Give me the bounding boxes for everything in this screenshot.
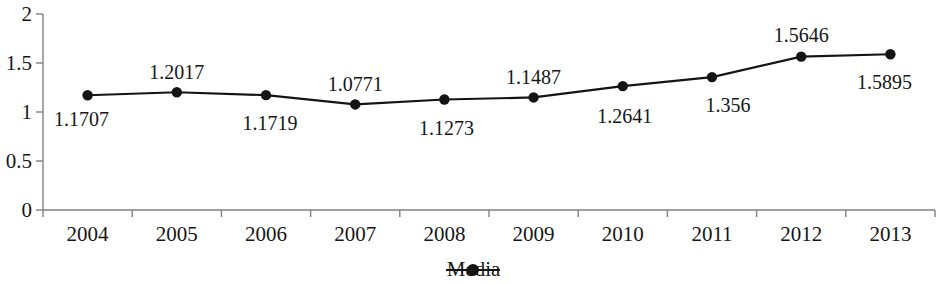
- x-axis-tick-label: 2006: [221, 224, 311, 245]
- x-axis-tick-label: 2008: [399, 224, 489, 245]
- x-axis-tick-label: 2007: [310, 224, 400, 245]
- data-point-marker: [82, 90, 92, 100]
- y-axis-tick-label: 1.5: [6, 53, 32, 74]
- data-point-label: 1.0771: [310, 74, 400, 94]
- data-point-marker: [796, 51, 806, 61]
- data-point-label: 1.1719: [225, 113, 315, 133]
- data-point-label: 1.1273: [401, 118, 491, 138]
- data-point-marker: [172, 87, 182, 97]
- y-axis-tick-label: 2: [22, 4, 33, 25]
- data-point-marker: [707, 72, 717, 82]
- data-point-marker: [261, 90, 271, 100]
- data-point-marker: [439, 94, 449, 104]
- data-point-label: 1.5646: [756, 25, 846, 45]
- data-point-label: 1.1707: [37, 109, 127, 129]
- line-chart: 00.511.52 200420052006200720082009201020…: [0, 0, 947, 284]
- y-axis-tick-label: 0.5: [6, 151, 32, 172]
- data-point-label: 1.2017: [132, 62, 222, 82]
- y-axis-tick-label: 0: [22, 200, 33, 221]
- data-point-label: 1.1487: [489, 67, 579, 87]
- x-axis-tick-label: 2009: [489, 224, 579, 245]
- x-axis-tick-label: 2004: [43, 224, 133, 245]
- data-point-label: 1.2641: [580, 106, 670, 126]
- x-axis-tick-label: 2012: [756, 224, 846, 245]
- data-point-marker: [618, 81, 628, 91]
- data-point-marker: [885, 49, 895, 59]
- x-axis-tick-label: 2013: [845, 224, 935, 245]
- data-point-label: 1.5895: [839, 72, 929, 92]
- x-axis-tick-label: 2005: [132, 224, 222, 245]
- x-axis-tick-label: 2011: [667, 224, 757, 245]
- data-point-marker: [528, 92, 538, 102]
- x-axis-tick-label: 2010: [578, 224, 668, 245]
- chart-legend: Media: [0, 255, 947, 284]
- y-axis-tick-label: 1: [22, 102, 33, 123]
- legend-label-media: Media: [447, 259, 501, 280]
- data-point-marker: [350, 99, 360, 109]
- data-point-label: 1.356: [683, 95, 773, 115]
